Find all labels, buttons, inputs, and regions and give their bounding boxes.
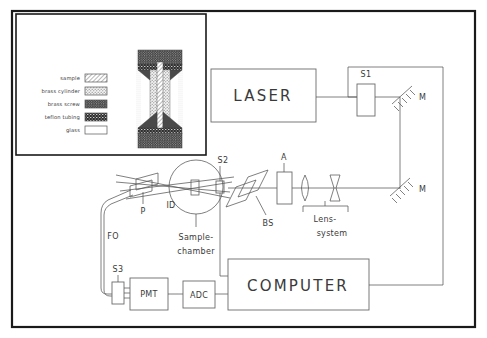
laser-label: LASER [233,87,292,105]
legend-row-brass-screw: brass screw [48,100,107,108]
lens-system-label-line1: Lens- [314,215,337,224]
aperture-label: A [281,153,287,162]
iris-diaphragm-label: ID [166,201,175,210]
shutter-s3-label: S3 [113,265,124,274]
legend-swatch-glass [85,126,107,134]
polarizer-label: P [140,207,145,216]
lens-system-label-line2: system [317,229,348,238]
computer-label: COMPUTER [247,277,349,295]
computer-to-s1-control [369,67,443,285]
legend-swatch-brass-cylinder [85,87,107,95]
shutter-s1[interactable] [357,84,375,116]
bs-leader-line [256,196,266,215]
lens-system-bracket [303,206,348,212]
legend-label-sample: sample [60,75,80,82]
sample-chamber-label-line2: chamber [177,247,215,256]
shutter-s3[interactable] [112,282,124,304]
legend-swatch-brass-screw [85,100,107,108]
aperture-a[interactable] [277,172,292,204]
legend-row-sample: sample [60,74,107,82]
shutter-s1-label: S1 [361,70,372,79]
legend-row-teflon-tubing: teflon tubing [45,113,107,121]
adc-label: ADC [190,291,208,300]
mirror-top-label: M [419,93,426,102]
diagram-canvas: sample brass cylinder brass screw teflon… [0,0,487,338]
legend: sample brass cylinder brass screw teflon… [42,74,107,134]
fiber-optic-label: FO [107,232,119,241]
legend-label-brass-screw: brass screw [48,101,81,107]
mirror-bottom-label: M [419,185,426,194]
shutter-s2-label: S2 [218,156,229,165]
legend-swatch-teflon-tubing [85,113,107,121]
beam-splitter[interactable] [226,170,268,207]
legend-label-brass-cylinder: brass cylinder [42,88,81,95]
fiber-optic [101,190,133,296]
legend-label-teflon-tubing: teflon tubing [45,114,80,121]
legend-label-glass: glass [66,127,80,134]
cell-sample-column [157,62,163,136]
mirror-top[interactable] [392,86,415,111]
sample-chamber-label-line1: Sample- [179,233,214,242]
mirror-bottom[interactable] [390,178,413,203]
pmt-label: PMT [140,290,158,299]
beam-splitter-label: BS [262,219,273,228]
legend-swatch-sample [85,74,107,82]
legend-row-brass-cylinder: brass cylinder [42,87,107,95]
sample-cell-cross-section [136,50,183,148]
cell-bottom-screw [138,133,182,148]
legend-row-glass: glass [66,126,107,134]
